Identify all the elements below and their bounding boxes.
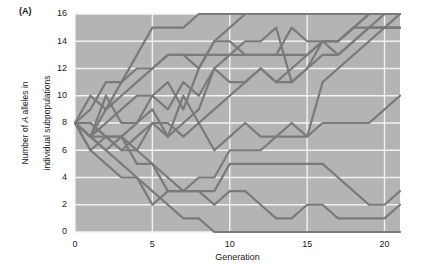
y-tick-label: 10 bbox=[57, 90, 67, 100]
y-tick-label: 6 bbox=[62, 145, 67, 155]
y-tick-label: 12 bbox=[57, 63, 67, 73]
y-tick-label: 8 bbox=[62, 117, 67, 127]
y-axis-tick-labels: 0246810121416 bbox=[57, 8, 67, 236]
y-tick-label: 16 bbox=[57, 8, 67, 18]
x-tick-label: 0 bbox=[72, 239, 77, 249]
x-axis-label: Generation bbox=[75, 252, 400, 262]
x-tick-label: 5 bbox=[150, 239, 155, 249]
figure-panel-a: (A) Number of A alleles in individual su… bbox=[0, 0, 422, 270]
x-tick-label: 10 bbox=[225, 239, 235, 249]
x-tick-label: 15 bbox=[302, 239, 312, 249]
line-chart-plot: 0246810121416 05101520 bbox=[0, 0, 422, 270]
y-tick-label: 14 bbox=[57, 36, 67, 46]
x-tick-label: 20 bbox=[380, 239, 390, 249]
y-tick-label: 4 bbox=[62, 172, 67, 182]
y-tick-label: 0 bbox=[62, 226, 67, 236]
y-tick-label: 2 bbox=[62, 199, 67, 209]
x-axis-tick-labels: 05101520 bbox=[72, 239, 389, 249]
